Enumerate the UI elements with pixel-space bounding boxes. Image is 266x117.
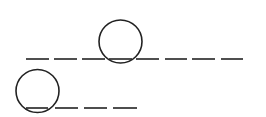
highlight-circle: [16, 70, 59, 113]
word-row-2: [16, 70, 137, 113]
word-blank-diagram: [0, 0, 266, 117]
highlight-circle: [99, 20, 142, 63]
word-row-1: [26, 20, 243, 63]
